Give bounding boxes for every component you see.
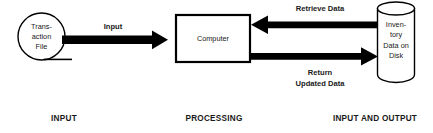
transaction-file-label-line1: Trans- — [31, 22, 52, 31]
data-flow-diagram: Trans- action File Input Computer Retrie… — [0, 0, 433, 133]
retrieve-arrow-shape — [251, 16, 378, 34]
return-arrow-label-line1: Return — [308, 68, 333, 77]
caption-input-and-output: INPUT AND OUTPUT — [333, 114, 417, 123]
flow-return-arrow — [250, 47, 378, 65]
input-arrow-label: Input — [104, 22, 123, 31]
caption-processing: PROCESSING — [185, 114, 242, 123]
return-arrow-shape — [250, 47, 378, 65]
flow-input-arrow — [62, 30, 168, 49]
inventory-disk-label-line3: Data on — [383, 41, 409, 50]
node-computer: Computer — [176, 15, 250, 62]
computer-label: Computer — [197, 34, 230, 43]
transaction-file-label-line3: File — [36, 42, 48, 51]
diagram-canvas: Trans- action File Input Computer Retrie… — [0, 0, 433, 133]
inventory-disk-label-line1: Inven- — [386, 20, 407, 29]
inventory-disk-label-line4: Disk — [389, 51, 404, 60]
flow-retrieve-arrow — [251, 16, 378, 34]
return-arrow-label-line2: Updated Data — [296, 79, 346, 88]
input-arrow-shape — [62, 30, 168, 49]
node-inventory-disk: Inven- tory Data on Disk — [378, 2, 415, 83]
transaction-file-label-line2: action — [32, 32, 51, 41]
inventory-disk-label-line2: tory — [390, 30, 403, 39]
inventory-disk-cylinder-top — [378, 2, 415, 15]
caption-input: INPUT — [51, 114, 77, 123]
retrieve-arrow-label: Retrieve Data — [296, 4, 345, 13]
